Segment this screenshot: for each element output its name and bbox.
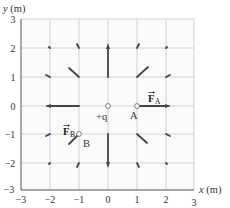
field-vector-arrow [166, 163, 167, 164]
svg-text:F: F [148, 93, 154, 104]
svg-text:A: A [155, 97, 161, 106]
y-tick-labels: 3 2 1 0 −1 −2 −3 [4, 14, 16, 195]
x-axis-label: x (m) [198, 184, 222, 196]
point-A-label: A [130, 110, 138, 121]
x-tick: −1 [74, 194, 85, 205]
electric-field-diagram: y (m) x (m) 3 2 1 0 −1 −2 −3 −3 −2 −1 0 … [0, 0, 230, 208]
x-tick: −2 [45, 194, 56, 205]
point-B-marker [77, 132, 82, 137]
x-tick: 2 [164, 194, 169, 205]
field-vector-arrow [49, 47, 50, 48]
field-vector-arrow [49, 163, 50, 164]
y-tick: 2 [11, 43, 16, 54]
x-tick: 3 [192, 197, 197, 208]
x-tick: 0 [106, 194, 111, 205]
charge-label: +q [96, 111, 108, 122]
point-A-marker [135, 104, 140, 109]
y-tick: 1 [11, 72, 16, 83]
y-tick: −1 [5, 129, 16, 140]
y-tick: 3 [11, 14, 16, 25]
y-tick: −2 [5, 158, 16, 169]
x-tick: 1 [135, 194, 140, 205]
svg-text:F: F [63, 126, 69, 137]
point-B-label: B [83, 138, 90, 149]
charge-marker [106, 104, 111, 109]
y-tick: −3 [4, 184, 15, 195]
x-tick-labels: −3 −2 −1 0 1 2 3 [16, 194, 197, 208]
svg-text:B: B [70, 130, 75, 139]
x-tick: −3 [16, 194, 27, 205]
field-vector-arrow [166, 47, 167, 48]
y-tick: 0 [11, 101, 16, 112]
